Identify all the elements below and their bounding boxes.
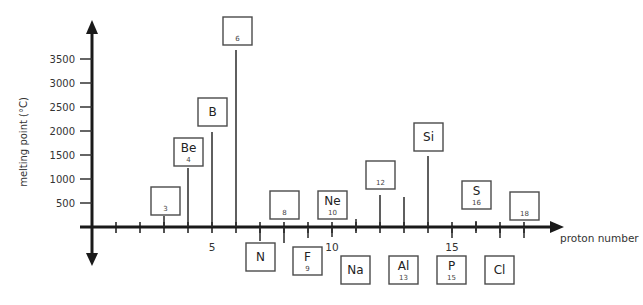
element-symbol: S (473, 184, 481, 198)
x-tick-label: 15 (445, 241, 458, 253)
element-symbol: P (448, 259, 455, 273)
proton-number-label: 4 (186, 156, 191, 164)
element-symbol: Na (347, 263, 363, 277)
element-box: 18 (510, 192, 539, 220)
y-tick-label: 1000 (50, 174, 75, 185)
element-symbol: F (304, 250, 311, 264)
element-box: Al13 (389, 256, 418, 284)
element-box: Na (341, 256, 370, 284)
y-tick-label: 2000 (50, 126, 75, 137)
element-symbol: N (256, 250, 265, 264)
melting-point-chart: 500100015002000250030003500 melting poin… (0, 0, 643, 305)
y-tick-label: 2500 (50, 102, 75, 113)
element-symbol: Ne (324, 194, 340, 208)
proton-number-label: 18 (520, 210, 529, 218)
proton-number-label: 12 (376, 179, 385, 187)
proton-number-label: 8 (282, 209, 286, 217)
element-box: 8 (270, 191, 299, 219)
y-tick-label: 500 (56, 198, 75, 209)
element-box: B (198, 98, 227, 126)
element-symbol: Cl (494, 263, 506, 277)
element-box: Si (414, 123, 443, 151)
x-axis-label: proton number (560, 232, 639, 244)
element-box: 3 (151, 187, 180, 215)
y-ticks: 500100015002000250030003500 (50, 54, 92, 209)
proton-number-label: 10 (328, 209, 337, 217)
element-symbol: Si (423, 130, 434, 144)
y-axis-label: melting point (°C) (18, 97, 29, 187)
element-box: N (246, 243, 275, 271)
element-box: S16 (462, 181, 491, 209)
y-tick-label: 3500 (50, 54, 75, 65)
element-symbol: Be (181, 141, 197, 155)
element-box: Cl (485, 256, 514, 284)
x-tick-label: 5 (209, 241, 216, 253)
element-box: P15 (437, 256, 466, 284)
element-box: Be4 (174, 138, 203, 166)
y-axis-down-arrow-icon (86, 253, 98, 266)
proton-number-label: 16 (472, 199, 481, 207)
element-box: F9 (293, 247, 322, 275)
x-tick-label: 10 (325, 241, 338, 253)
proton-number-label: 3 (163, 205, 167, 213)
y-axis-up-arrow-icon (86, 20, 98, 34)
element-symbol: Al (398, 259, 410, 273)
proton-number-label: 13 (399, 274, 408, 282)
element-box: 12 (366, 161, 395, 189)
y-axis: 500100015002000250030003500 melting poin… (18, 20, 98, 266)
proton-number-label: 9 (305, 265, 309, 273)
y-tick-label: 3000 (50, 78, 75, 89)
element-symbol: B (208, 105, 216, 119)
element-box: Ne10 (318, 191, 347, 219)
y-tick-label: 1500 (50, 150, 75, 161)
proton-number-label: 15 (447, 274, 456, 282)
element-box: 6 (223, 17, 252, 45)
proton-number-label: 6 (235, 35, 240, 43)
